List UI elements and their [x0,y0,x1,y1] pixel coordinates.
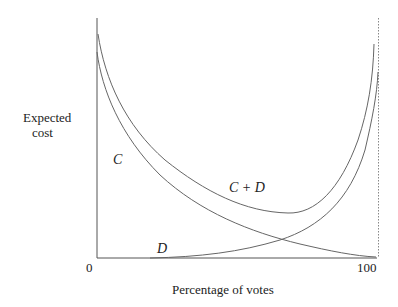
x-axis-label: Percentage of votes [172,282,274,298]
curve-label-d: D [157,241,167,257]
y-axis-label-line2: cost [32,125,53,141]
x-tick-0: 0 [86,260,93,276]
y-axis-label-line1: Expected [23,110,71,126]
curve-c [97,52,376,257]
curve-label-c-plus-d: C + D [229,180,265,196]
x-tick-100: 100 [357,260,377,276]
curve-label-c: C [113,152,122,168]
chart-canvas [0,0,398,307]
curve-d [150,72,378,258]
